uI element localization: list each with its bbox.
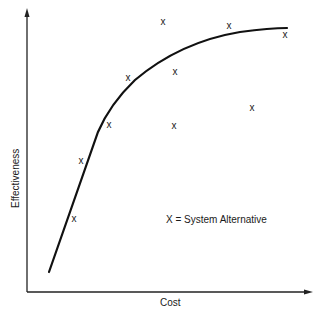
diagram-canvas xyxy=(0,0,319,316)
x-axis-label: Cost xyxy=(160,297,181,308)
frontier-curve xyxy=(49,28,287,272)
data-point-marker: x xyxy=(280,30,290,40)
data-point-marker: x xyxy=(169,121,179,131)
data-point-marker: x xyxy=(104,120,114,130)
legend-text: X = System Alternative xyxy=(166,214,267,225)
data-point-marker: x xyxy=(69,214,79,224)
legend: X = System Alternative xyxy=(166,214,267,225)
data-point-marker: x xyxy=(247,103,257,113)
y-axis-arrow-icon xyxy=(25,8,30,17)
data-point-marker: x xyxy=(224,21,234,31)
data-point-marker: x xyxy=(76,156,86,166)
x-axis-arrow-icon xyxy=(304,290,313,295)
data-point-marker: x xyxy=(158,17,168,27)
data-point-marker: x xyxy=(170,67,180,77)
data-point-marker: x xyxy=(123,73,133,83)
y-axis-label: Effectiveness xyxy=(10,149,21,208)
